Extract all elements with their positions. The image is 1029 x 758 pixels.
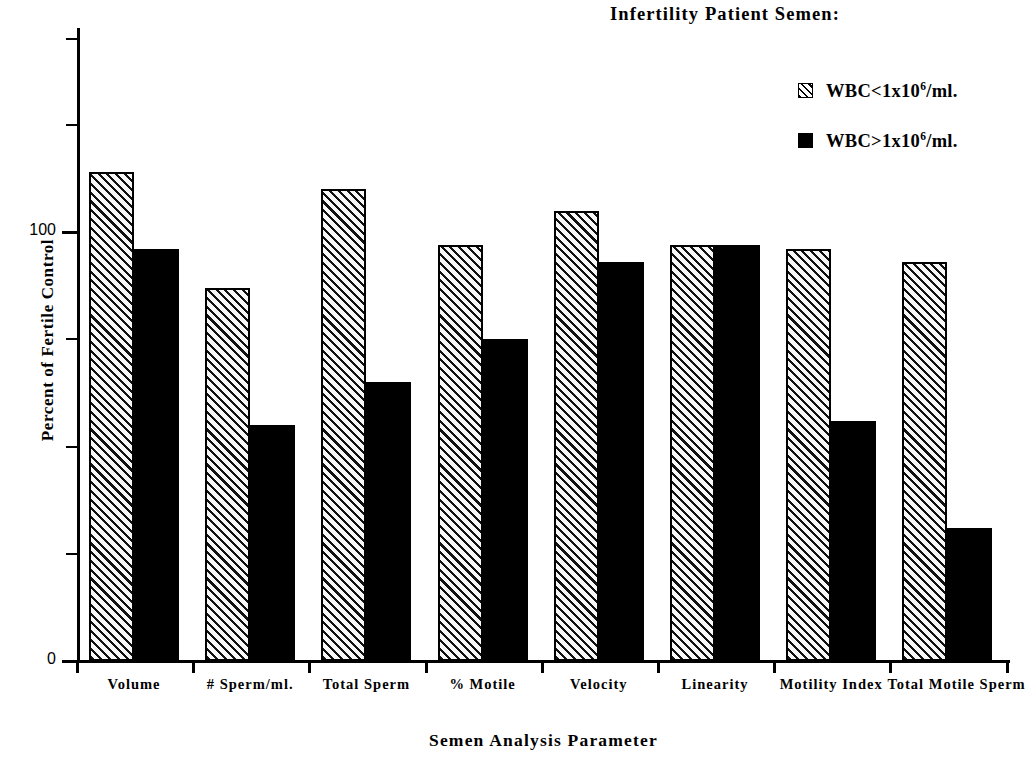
bar-wbc-high-1 bbox=[250, 425, 295, 661]
bar-wbc-high-7 bbox=[947, 528, 992, 661]
category-label-1: # Sperm/ml. bbox=[190, 676, 310, 693]
x-tick-2 bbox=[308, 661, 311, 673]
bar-wbc-low-3 bbox=[438, 245, 483, 661]
x-tick-3 bbox=[425, 661, 428, 673]
category-label-0: Volume bbox=[74, 676, 194, 693]
bar-wbc-high-3 bbox=[483, 339, 528, 661]
x-tick-7 bbox=[889, 661, 892, 673]
y-tick-75 bbox=[66, 338, 79, 340]
x-axis-title: Semen Analysis Parameter bbox=[77, 730, 1010, 751]
bar-wbc-high-5 bbox=[715, 245, 760, 661]
category-label-6: Motility Index bbox=[771, 676, 891, 693]
x-tick-4 bbox=[541, 661, 544, 673]
x-tick-5 bbox=[657, 661, 660, 673]
bar-wbc-low-1 bbox=[205, 288, 250, 661]
y-axis-title: Percent of Fertile Control bbox=[38, 200, 58, 480]
y-tick-100 bbox=[62, 231, 80, 234]
bar-wbc-low-6 bbox=[786, 249, 831, 661]
bar-wbc-low-0 bbox=[89, 172, 134, 661]
x-tick-1 bbox=[192, 661, 195, 673]
category-label-3: % Motile bbox=[423, 676, 543, 693]
bar-chart-figure: Infertility Patient Semen: WBC<1x106/ml.… bbox=[0, 0, 1029, 758]
bar-wbc-high-2 bbox=[366, 382, 411, 661]
y-tick-label-0: 0 bbox=[10, 650, 56, 668]
bar-wbc-high-4 bbox=[599, 262, 644, 661]
x-tick-6 bbox=[773, 661, 776, 673]
bar-wbc-low-2 bbox=[321, 189, 366, 661]
bar-wbc-low-4 bbox=[554, 211, 599, 661]
y-tick-145 bbox=[66, 38, 79, 40]
y-tick-50 bbox=[66, 446, 79, 448]
category-label-5: Linearity bbox=[655, 676, 775, 693]
bar-wbc-high-0 bbox=[134, 249, 179, 661]
y-tick-125 bbox=[66, 124, 79, 126]
x-tick-end bbox=[1006, 661, 1009, 673]
x-tick-0 bbox=[76, 661, 79, 673]
y-tick-25 bbox=[66, 553, 79, 555]
category-label-4: Velocity bbox=[539, 676, 659, 693]
category-label-2: Total Sperm bbox=[306, 676, 426, 693]
plot-area: 0100 Volume# Sperm/ml.Total Sperm% Motil… bbox=[0, 0, 1029, 758]
bar-wbc-high-6 bbox=[831, 421, 876, 661]
bar-wbc-low-7 bbox=[902, 262, 947, 661]
category-label-7: Total Motile Sperm bbox=[887, 676, 1007, 693]
bar-wbc-low-5 bbox=[670, 245, 715, 661]
